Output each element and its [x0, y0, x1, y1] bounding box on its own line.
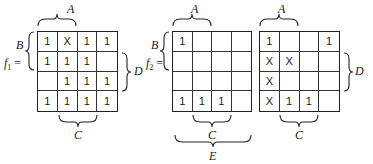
function-label-f2: f2 = [146, 56, 163, 72]
cell [319, 72, 339, 92]
function-label-f1: f1 = [4, 56, 21, 72]
cell: 1 [58, 52, 78, 72]
cell: 1 [193, 91, 213, 111]
cell: 1 [300, 91, 320, 111]
cell: 1 [78, 32, 98, 52]
cell [232, 32, 252, 52]
cell: 1 [260, 32, 280, 52]
cell [232, 91, 252, 111]
cell [193, 52, 213, 72]
cell [300, 72, 320, 92]
cell: 1 [58, 72, 78, 92]
brace-a [259, 14, 299, 28]
cell [232, 52, 252, 72]
cell [300, 32, 320, 52]
cell: 1 [97, 72, 117, 92]
brace-b [25, 31, 35, 71]
cell: 1 [78, 52, 98, 72]
cell [193, 32, 213, 52]
cell [97, 52, 117, 72]
kmap-grid-f2-left: 1 1 1 1 [172, 31, 252, 112]
cell: X [280, 52, 300, 72]
cell: 1 [38, 32, 58, 52]
label-c: C [295, 128, 303, 143]
cell: 1 [38, 52, 58, 72]
cell: X [58, 32, 78, 52]
cell [212, 32, 232, 52]
cell [193, 72, 213, 92]
kmap-grid-f2-right: 1 1 X X X X 1 1 [259, 31, 340, 112]
cell [232, 72, 252, 92]
label-b: B [151, 38, 158, 53]
brace-d [344, 52, 354, 92]
cell: X [260, 91, 280, 111]
cell [319, 91, 339, 111]
label-b: B [16, 38, 23, 53]
cell: 1 [58, 91, 78, 111]
cell [300, 52, 320, 72]
cell: 1 [280, 91, 300, 111]
cell [319, 52, 339, 72]
brace-c [58, 115, 98, 129]
brace-e [174, 135, 252, 149]
cell: 1 [212, 91, 232, 111]
cell [212, 52, 232, 72]
cell [212, 72, 232, 92]
cell [280, 72, 300, 92]
cell: 1 [38, 91, 58, 111]
cell: 1 [319, 32, 339, 52]
label-e: E [209, 149, 216, 164]
brace-d [122, 52, 132, 92]
cell: X [260, 72, 280, 92]
brace-a [172, 14, 212, 28]
brace-c [279, 115, 319, 129]
cell: 1 [173, 32, 193, 52]
label-d: D [355, 64, 364, 79]
label-c: C [74, 128, 82, 143]
cell: 1 [97, 32, 117, 52]
label-d: D [134, 64, 143, 79]
cell: 1 [78, 91, 98, 111]
cell: 1 [97, 91, 117, 111]
cell [280, 32, 300, 52]
cell [38, 72, 58, 92]
cell: 1 [173, 91, 193, 111]
brace-a [37, 14, 77, 28]
brace-c [192, 115, 232, 129]
cell [173, 72, 193, 92]
cell: X [260, 52, 280, 72]
cell: 1 [78, 72, 98, 92]
cell [173, 52, 193, 72]
kmap-grid-f1: 1 X 1 1 1 1 1 1 1 1 1 1 1 1 [37, 31, 118, 112]
